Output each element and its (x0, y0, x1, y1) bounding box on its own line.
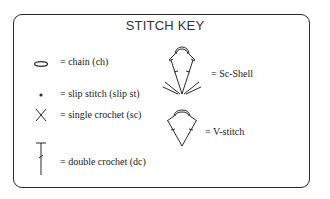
v-stitch-label: = V-stitch (205, 126, 244, 137)
chain-icon (33, 60, 49, 68)
sc-shell-label: = Sc-Shell (211, 68, 253, 79)
double-crochet-icon (35, 142, 47, 176)
slip-stitch-icon (38, 92, 44, 98)
stitch-key-title: STITCH KEY (0, 18, 330, 33)
stitch-key-box (13, 14, 310, 188)
sc-shell-icon (160, 42, 204, 98)
single-crochet-label: = single crochet (sc) (60, 109, 141, 120)
slip-stitch-label: = slip stitch (slip st) (60, 88, 140, 99)
double-crochet-label: = double crochet (dc) (60, 156, 146, 167)
chain-label: = chain (ch) (60, 56, 108, 67)
v-stitch-icon (162, 108, 202, 148)
single-crochet-icon (35, 108, 47, 122)
